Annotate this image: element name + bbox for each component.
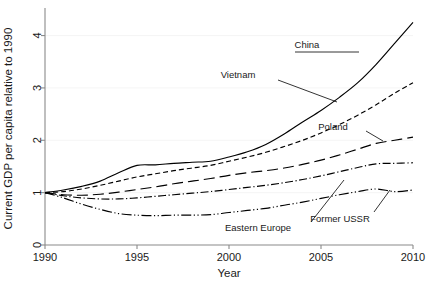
series-label-vietnam: Vietnam	[221, 69, 256, 80]
leader-line-vietnam	[278, 80, 337, 102]
y-tick-label: 3	[31, 85, 43, 91]
y-tick-label: 1	[31, 190, 43, 196]
series-curves-group	[45, 22, 413, 215]
y-tick-label: 0	[31, 242, 43, 248]
x-tick-label: 2000	[217, 251, 241, 263]
gridlines-group	[45, 36, 413, 193]
x-tick-label: 2005	[309, 251, 333, 263]
y-axis-title: Current GDP per capita relative to 1990	[2, 28, 14, 230]
leader-line-poland	[366, 131, 383, 141]
gdp-line-chart: 01234 19901995200020052010 ChinaVietnamP…	[0, 0, 431, 287]
x-tick-label: 1990	[33, 251, 57, 263]
y-tick-label: 2	[31, 137, 43, 143]
y-tick-label: 4	[31, 32, 43, 38]
series-line-vietnam	[45, 83, 413, 193]
series-label-former-ussr: Former USSR	[310, 213, 370, 224]
x-axis-title: Year	[217, 267, 240, 279]
chart-figure: 01234 19901995200020052010 ChinaVietnamP…	[0, 0, 431, 287]
x-tick-label: 1995	[125, 251, 149, 263]
x-axis-ticks: 19901995200020052010	[33, 245, 425, 263]
leader-line-former-ussr	[374, 190, 390, 212]
series-label-eastern-europe: Eastern Europe	[225, 222, 291, 233]
y-axis-ticks: 01234	[31, 32, 45, 248]
series-label-china: China	[295, 39, 321, 50]
series-label-poland: Poland	[318, 121, 348, 132]
series-annotations-group: ChinaVietnamPolandEastern EuropeFormer U…	[221, 39, 390, 233]
x-tick-label: 2010	[401, 251, 425, 263]
series-line-poland	[45, 137, 413, 195]
